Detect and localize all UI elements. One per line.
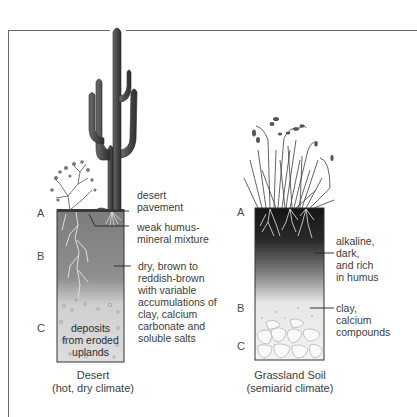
annotation-grassland-a-horizon: alkaline, dark, and rich in humus: [336, 235, 379, 283]
desert-horizon-c: C: [37, 322, 45, 334]
annotation-grassland-b-horizon: clay, calcium compounds: [336, 302, 390, 338]
annotation-weak-humus: weak humus- mineral mixture: [137, 221, 209, 245]
grassland-horizon-b: B: [237, 302, 244, 314]
grassland-horizon-c: C: [237, 340, 245, 352]
grass-tuft: [244, 117, 334, 208]
desert-caption: Desert (hot, dry climate): [43, 369, 143, 395]
desert-shrub: [50, 160, 96, 210]
grassland-horizon-a: A: [237, 206, 244, 218]
desert-horizon-a: A: [37, 207, 44, 219]
grassland-caption: Grassland Soil (semiarid climate): [240, 369, 340, 395]
grassland-soil-column: [255, 208, 324, 360]
desert-horizon-b: B: [37, 250, 44, 262]
annotation-desert-pavement: desert pavement: [137, 189, 183, 213]
desert-deposits-text: deposits from eroded uplands: [57, 322, 124, 358]
saguaro-cactus: [89, 28, 137, 210]
annotation-desert-b-horizon: dry, brown to reddish-brown with variabl…: [138, 260, 217, 344]
